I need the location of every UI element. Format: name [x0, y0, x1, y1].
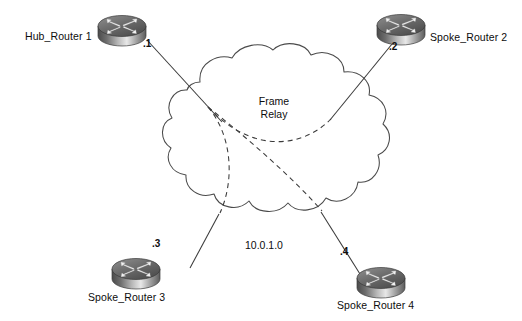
interface-label-spoke-router-4: .4 [340, 246, 348, 257]
router-icon-spoke-router-4[interactable] [355, 261, 407, 303]
network-topology-diagram: Hub_Router 1 Spoke_Router 2 Spoke_Router… [0, 0, 522, 321]
frame-relay-cloud-shape [162, 44, 389, 212]
router-icon-spoke-router-2[interactable] [375, 8, 427, 50]
cloud-label-line2: Relay [244, 108, 304, 121]
interface-label-spoke-router-2: .2 [389, 41, 397, 52]
cloud-label-line1: Frame [244, 95, 304, 108]
router-icon-spoke-router-3[interactable] [110, 252, 162, 294]
cloud-label: Frame Relay [244, 95, 304, 121]
interface-label-hub-router-1: .1 [143, 38, 151, 49]
router-label-spoke-router-3: Spoke_Router 3 [88, 291, 165, 303]
router-label-spoke-router-2: Spoke_Router 2 [430, 31, 507, 43]
link-spoke3-cloud [190, 214, 219, 268]
router-label-spoke-router-4: Spoke_Router 4 [337, 299, 414, 311]
router-icon-hub-router-1[interactable] [96, 9, 148, 51]
router-label-hub-router-1: Hub_Router 1 [25, 30, 92, 42]
diagram-canvas [0, 0, 522, 321]
interface-label-spoke-router-3: .3 [152, 238, 160, 249]
network-address-label: 10.0.1.0 [245, 239, 283, 251]
